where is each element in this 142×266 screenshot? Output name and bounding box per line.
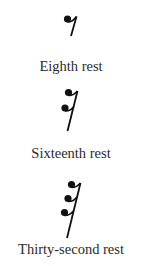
thirty-second-rest-label: Thirty-second rest [0, 241, 142, 257]
sixteenth-rest-icon [0, 85, 142, 135]
sixteenth-rest-label: Sixteenth rest [0, 145, 142, 161]
thirty-second-rest-icon [0, 178, 142, 240]
eighth-rest-label: Eighth rest [0, 58, 142, 74]
eighth-rest-icon [0, 0, 142, 45]
